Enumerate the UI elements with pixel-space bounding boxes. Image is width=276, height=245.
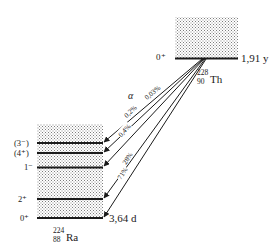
daughter-nucleus: (3⁻) (4⁺) 1⁻ 2⁺ 0⁺ 3,64 d 224 88 Ra [14,124,137,244]
daughter-symbol: Ra [66,231,78,243]
parent-symbol: Th [210,73,223,85]
branch-label-0: 0,03% [143,84,162,102]
spin-label-1minus: 1⁻ [24,162,33,172]
branch-label-1: 0,2% [123,104,139,120]
daughter-half-life: 3,64 d [109,212,137,224]
daughter-continuum-shading [37,124,103,219]
spin-label-4plus: (4⁺) [14,148,29,158]
daughter-atomic-number: 88 [53,235,61,244]
spin-label-2plus: 2⁺ [18,194,27,204]
parent-half-life: 1,91 y [241,52,269,64]
parent-atomic-number: 90 [197,77,205,86]
alpha-transitions [104,59,206,217]
decay-scheme-diagram: 0⁺ 1,91 y 228 90 Th (3⁻) (4⁺) 1⁻ 2⁺ 0⁺ 3… [0,0,276,245]
parent-nucleus: 0⁺ 1,91 y 228 90 Th [156,17,269,86]
transition-to-1minus [104,59,204,166]
daughter-mass-number: 224 [53,226,65,235]
spin-label-0plus: 0⁺ [20,213,29,223]
branch-label-2: 0,4% [117,123,133,139]
branching-labels: 0,03% 0,2% 0,4% 28% 71% [115,83,162,181]
branch-label-4: 71% [116,166,130,181]
decay-mode-alpha: α [128,90,134,101]
spin-label-3minus: (3⁻) [14,138,29,148]
transition-to-3minus [104,59,202,142]
parent-continuum-shading [175,17,238,58]
transition-to-4plus [104,59,203,152]
parent-ground-spin: 0⁺ [156,52,166,62]
